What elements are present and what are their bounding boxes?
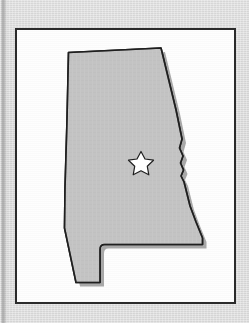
state-shape-group: [65, 48, 207, 287]
state-map-graphic: [0, 0, 249, 323]
map-page: [0, 0, 249, 323]
